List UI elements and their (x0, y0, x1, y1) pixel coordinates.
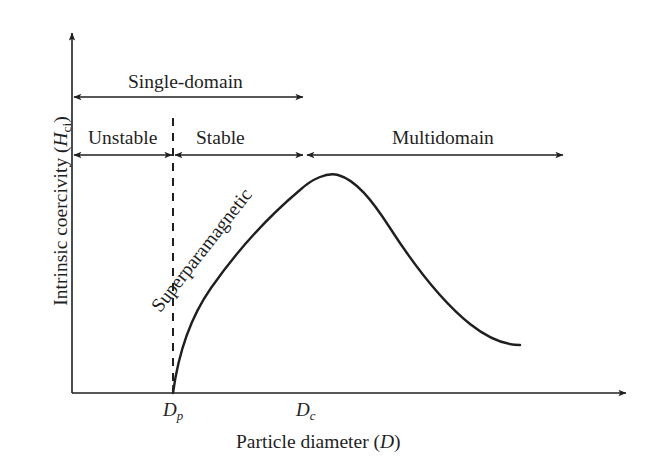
region-label-stable: Stable (196, 128, 245, 148)
y-axis-title-prefix: Intrinsic coercivity ( (50, 146, 71, 305)
tick-label-dp-symbol: D (163, 399, 177, 420)
tick-label-dp: Dp (163, 400, 183, 423)
y-axis-title-subscript: ci (59, 123, 74, 133)
transition-band (279, 78, 332, 393)
tick-label-dc-symbol: D (296, 399, 310, 420)
y-axis-title-suffix: ) (50, 116, 71, 123)
region-label-single-domain: Single-domain (128, 72, 243, 92)
tick-label-dp-subscript: p (177, 408, 183, 423)
tick-label-dc: Dc (296, 400, 315, 423)
x-axis-title-prefix: Particle diameter ( (236, 431, 380, 452)
region-label-unstable: Unstable (88, 128, 157, 148)
coercivity-vs-particle-diameter-figure: Single-domain Unstable Stable Multidomai… (0, 0, 659, 469)
x-axis-title: Particle diameter (D) (236, 432, 401, 452)
x-axis-title-symbol: D (380, 431, 394, 452)
plot-canvas (0, 0, 659, 469)
y-axis-title-symbol: H (50, 132, 71, 146)
tick-label-dc-subscript: c (310, 408, 316, 423)
y-axis-title: Intrinsic coercivity (Hci) (51, 81, 73, 341)
x-axis-title-suffix: ) (394, 431, 401, 452)
region-label-multidomain: Multidomain (392, 128, 494, 148)
